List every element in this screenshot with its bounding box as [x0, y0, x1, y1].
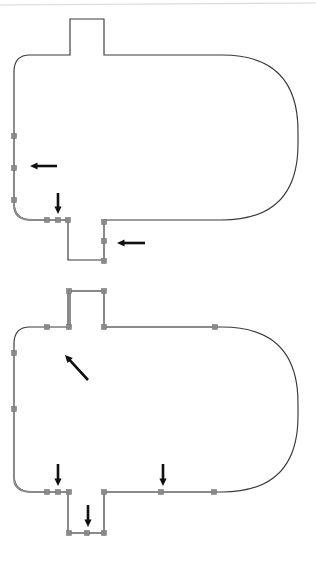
handle-left-wall-top[interactable] [12, 351, 17, 356]
handle-left-wall-bottom[interactable] [12, 198, 17, 203]
handle-top-notch-left-base[interactable] [67, 325, 72, 330]
handle-left-wall-top[interactable] [12, 134, 17, 139]
upper-tank-outline[interactable] [14, 19, 298, 260]
selected-bottom-notch-box[interactable] [68, 492, 104, 533]
lower-handle-group[interactable] [12, 289, 218, 536]
handle-bottom-notch-right-top[interactable] [102, 490, 107, 495]
handle-bottom-left-a[interactable] [45, 490, 50, 495]
lower-tank-figure[interactable] [12, 289, 299, 536]
arrow-left-down-head [54, 479, 61, 487]
handle-bottom-edge-right[interactable] [212, 490, 217, 495]
arrow-left-down [54, 464, 61, 486]
handle-top-edge-right[interactable] [213, 325, 218, 330]
upper-annotation-arrows [30, 162, 145, 246]
handle-top-notch-right-top[interactable] [102, 289, 107, 294]
handle-left-wall-mid[interactable] [12, 166, 17, 171]
arrow-right-down [159, 464, 166, 486]
page-top-rule [0, 3, 316, 5]
arrow-notch-down-head [54, 207, 61, 215]
arrow-diagonal-up-left-stem [69, 359, 88, 380]
handle-notch-right-bottom[interactable] [102, 259, 107, 264]
handle-top-edge-left[interactable] [45, 325, 50, 330]
handle-bottom-notch-left-top[interactable] [67, 490, 72, 495]
arrow-lower-right-inward-head [117, 239, 125, 246]
handle-bottom-notch-right-base[interactable] [102, 531, 107, 536]
handle-notch-right-top[interactable] [102, 220, 107, 225]
arrow-notch-down [84, 505, 91, 527]
handle-bottom-notch-mid-base[interactable] [85, 531, 90, 536]
handle-notch-left-top[interactable] [66, 218, 71, 223]
arrow-right-down-head [159, 479, 166, 487]
upper-tank-figure[interactable] [12, 19, 299, 264]
handle-bottom-notch-left-base[interactable] [67, 531, 72, 536]
handle-bottom-left-b[interactable] [56, 218, 61, 223]
drawing-canvas[interactable] [0, 0, 316, 562]
lower-annotation-arrows [54, 355, 166, 527]
handle-top-notch-right-base[interactable] [102, 325, 107, 330]
arrow-notch-down-head [84, 520, 91, 528]
handle-bottom-edge-mid[interactable] [159, 490, 164, 495]
handle-bottom-left-b[interactable] [56, 490, 61, 495]
selected-top-notch-box[interactable] [68, 291, 104, 327]
arrow-notch-down [54, 193, 61, 214]
handle-bottom-left-a[interactable] [45, 218, 50, 223]
arrow-diagonal-up-left [65, 355, 88, 380]
arrow-left-inward-head [30, 162, 38, 169]
handle-top-notch-left-top[interactable] [67, 289, 72, 294]
handle-left-wall-mid[interactable] [12, 407, 17, 412]
handle-notch-right-mid[interactable] [102, 239, 107, 244]
arrow-left-inward [30, 162, 57, 169]
arrow-lower-right-inward [117, 239, 145, 246]
vector-shape-layer[interactable] [0, 0, 316, 562]
